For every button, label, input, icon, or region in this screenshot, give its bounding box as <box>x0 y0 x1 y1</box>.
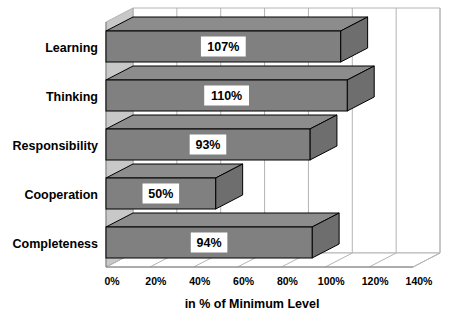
x-tick-label: 20% <box>145 275 167 287</box>
value-label: 94% <box>191 233 228 253</box>
x-axis-title: in % of Minimum Level <box>185 297 320 311</box>
category-label: Responsibility <box>13 139 98 153</box>
category-label: Thinking <box>46 90 98 104</box>
value-label: 107% <box>201 37 246 57</box>
x-tick-label: 40% <box>189 275 211 287</box>
value-label-text: 50% <box>148 187 173 201</box>
x-tick-label: 120% <box>362 275 390 287</box>
value-label-text: 110% <box>211 89 242 103</box>
category-axis-labels: LearningThinkingResponsibilityCooperatio… <box>13 41 98 251</box>
x-tick-label: 60% <box>233 275 255 287</box>
category-label: Completeness <box>13 237 98 251</box>
category-label: Cooperation <box>24 188 98 202</box>
x-tick-label: 100% <box>318 275 346 287</box>
chart-container: LearningThinkingResponsibilityCooperatio… <box>0 0 462 316</box>
x-tick-label: 140% <box>406 275 434 287</box>
value-label-text: 94% <box>197 236 222 250</box>
bar-chart-3d: LearningThinkingResponsibilityCooperatio… <box>0 0 462 316</box>
value-label: 50% <box>143 184 180 204</box>
x-tick-label: 80% <box>277 275 299 287</box>
value-label-text: 107% <box>207 40 239 54</box>
category-label: Learning <box>45 41 98 55</box>
value-label: 110% <box>204 86 249 106</box>
value-axis-tick-labels: 0%20%40%60%80%100%120%140% <box>104 275 433 287</box>
value-label-text: 93% <box>195 138 220 152</box>
x-tick-label: 0% <box>104 275 120 287</box>
value-label: 93% <box>190 135 227 155</box>
